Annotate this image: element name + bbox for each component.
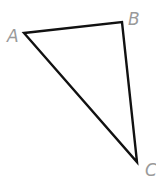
vertex-label-a: A [6,26,19,46]
triangle-abc [24,22,137,162]
vertex-label-b: B [128,9,140,29]
triangle-diagram: A B C [0,0,156,191]
vertex-label-c: C [145,160,156,180]
